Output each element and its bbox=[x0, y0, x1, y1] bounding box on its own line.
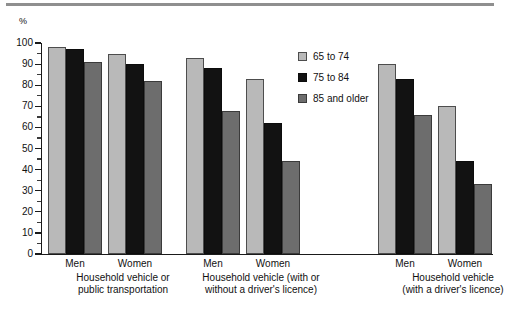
y-tick-70 bbox=[35, 106, 41, 107]
y-tick-100 bbox=[35, 42, 41, 43]
x-category-label-g2-women: Women bbox=[233, 258, 313, 270]
legend-label-65-74: 65 to 74 bbox=[313, 51, 349, 62]
chart-legend: 65 to 74 75 to 84 85 and older bbox=[298, 48, 406, 111]
y-tick-label-30: 30 bbox=[5, 186, 33, 196]
bar-g1-men-75-to-84 bbox=[66, 49, 84, 254]
x-group-label-3: Household vehicle(with a driver's licenc… bbox=[373, 272, 508, 296]
y-tick-30 bbox=[35, 190, 41, 191]
y-tick-label-20: 20 bbox=[5, 207, 33, 217]
y-tick-label-wrap-50: 50 bbox=[0, 144, 33, 154]
y-tick-label-40: 40 bbox=[5, 165, 33, 175]
y-tick-label-10: 10 bbox=[5, 228, 33, 238]
y-tick-minor-35 bbox=[37, 180, 41, 181]
bar-g2-men-75-to-84 bbox=[204, 68, 222, 254]
y-tick-label-wrap-0: 0 bbox=[0, 249, 33, 259]
bar-g1-men-85-and-older bbox=[84, 62, 102, 254]
y-tick-label-wrap-40: 40 bbox=[0, 165, 33, 175]
y-tick-10 bbox=[35, 232, 41, 233]
y-tick-minor-45 bbox=[37, 158, 41, 159]
x-group-label-2-line2: without a driver's licence) bbox=[181, 284, 341, 296]
y-tick-40 bbox=[35, 169, 41, 170]
y-tick-label-100: 100 bbox=[5, 38, 33, 48]
legend-item-85-older: 85 and older bbox=[298, 90, 406, 107]
bar-g3-men-85-and-older bbox=[414, 115, 432, 254]
bar-g1-women-75-to-84 bbox=[126, 64, 144, 254]
bar-g1-women-65-to-74 bbox=[108, 54, 126, 254]
y-tick-50 bbox=[35, 148, 41, 149]
y-tick-minor-15 bbox=[37, 222, 41, 223]
legend-swatch-icon-85-older bbox=[298, 94, 307, 103]
y-tick-minor-75 bbox=[37, 95, 41, 96]
legend-item-75-84: 75 to 84 bbox=[298, 69, 406, 86]
y-tick-80 bbox=[35, 85, 41, 86]
y-tick-label-wrap-20: 20 bbox=[0, 207, 33, 217]
y-axis-line bbox=[41, 43, 42, 255]
y-tick-label-90: 90 bbox=[5, 59, 33, 69]
bar-g1-men-65-to-74 bbox=[48, 47, 66, 254]
x-axis-line bbox=[41, 254, 493, 255]
x-group-label-1: Household vehicle orpublic transportatio… bbox=[43, 272, 203, 296]
y-tick-minor-25 bbox=[37, 201, 41, 202]
y-tick-label-80: 80 bbox=[5, 80, 33, 90]
legend-item-65-74: 65 to 74 bbox=[298, 48, 406, 65]
bar-g3-women-65-to-74 bbox=[438, 106, 456, 254]
y-tick-minor-85 bbox=[37, 74, 41, 75]
bar-g2-women-65-to-74 bbox=[246, 79, 264, 254]
x-group-label-2-line1: Household vehicle (with or bbox=[181, 272, 341, 284]
y-tick-0 bbox=[35, 253, 41, 254]
legend-swatch-icon-65-74 bbox=[298, 52, 307, 61]
x-group-label-3-line2: (with a driver's licence) bbox=[373, 284, 508, 296]
y-tick-minor-55 bbox=[37, 137, 41, 138]
x-group-label-3-line1: Household vehicle bbox=[373, 272, 508, 284]
y-tick-label-wrap-10: 10 bbox=[0, 228, 33, 238]
y-tick-label-wrap-70: 70 bbox=[0, 101, 33, 111]
bar-g3-women-75-to-84 bbox=[456, 161, 474, 254]
y-tick-label-wrap-100: 100 bbox=[0, 38, 33, 48]
y-tick-label-wrap-60: 60 bbox=[0, 122, 33, 132]
x-group-label-2: Household vehicle (with orwithout a driv… bbox=[181, 272, 341, 296]
bar-g3-women-85-and-older bbox=[474, 184, 492, 254]
bar-g2-women-75-to-84 bbox=[264, 123, 282, 254]
y-tick-label-60: 60 bbox=[5, 122, 33, 132]
x-group-label-1-line2: public transportation bbox=[43, 284, 203, 296]
bar-g2-men-65-to-74 bbox=[186, 58, 204, 254]
legend-label-75-84: 75 to 84 bbox=[313, 72, 349, 83]
y-tick-label-wrap-30: 30 bbox=[0, 186, 33, 196]
y-tick-label-wrap-90: 90 bbox=[0, 59, 33, 69]
bar-g2-women-85-and-older bbox=[282, 161, 300, 254]
legend-label-85-older: 85 and older bbox=[313, 93, 369, 104]
x-group-label-1-line1: Household vehicle or bbox=[43, 272, 203, 284]
y-tick-90 bbox=[35, 64, 41, 65]
bar-g1-women-85-and-older bbox=[144, 81, 162, 254]
legend-swatch-icon-75-84 bbox=[298, 73, 307, 82]
y-tick-minor-5 bbox=[37, 243, 41, 244]
y-tick-label-0: 0 bbox=[5, 249, 33, 259]
x-category-label-g1-women: Women bbox=[95, 258, 175, 270]
y-tick-20 bbox=[35, 211, 41, 212]
y-tick-minor-95 bbox=[37, 53, 41, 54]
x-category-label-g3-women: Women bbox=[425, 258, 505, 270]
y-tick-label-50: 50 bbox=[5, 144, 33, 154]
y-tick-minor-65 bbox=[37, 116, 41, 117]
y-tick-label-70: 70 bbox=[5, 101, 33, 111]
y-tick-label-wrap-80: 80 bbox=[0, 80, 33, 90]
y-tick-60 bbox=[35, 127, 41, 128]
bar-g2-men-85-and-older bbox=[222, 111, 240, 254]
